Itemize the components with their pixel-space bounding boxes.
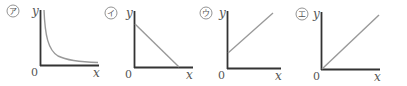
graph-set: ア y 0 x イ y 0 x ウ y 0 x エ y 0 x	[0, 0, 407, 86]
y-axis-label: y	[125, 6, 133, 20]
origin-label: 0	[125, 68, 132, 81]
panel-a: ア y 0 x	[7, 4, 100, 80]
increasing-line-with-intercept	[228, 13, 273, 53]
panel-e: エ y 0 x	[296, 7, 381, 84]
panel-marker: ウ	[202, 9, 210, 18]
panel-marker: ア	[9, 7, 17, 16]
origin-label: 0	[31, 66, 38, 79]
y-axis-label: y	[218, 6, 226, 20]
y-axis-label: y	[31, 4, 39, 18]
proportional-line	[322, 15, 379, 69]
x-axis-label: x	[186, 68, 193, 82]
panel-i: イ y 0 x	[105, 6, 193, 82]
origin-label: 0	[313, 70, 320, 83]
origin-label: 0	[218, 69, 225, 82]
y-axis-label: y	[312, 7, 320, 21]
panel-marker: エ	[298, 10, 306, 19]
hyperbola-curve	[44, 10, 98, 63]
x-axis-label: x	[93, 66, 100, 80]
panel-marker: イ	[107, 9, 115, 18]
decreasing-line	[135, 24, 179, 67]
panel-u: ウ y 0 x	[200, 6, 282, 83]
x-axis-label: x	[374, 70, 381, 84]
x-axis-label: x	[275, 69, 282, 83]
